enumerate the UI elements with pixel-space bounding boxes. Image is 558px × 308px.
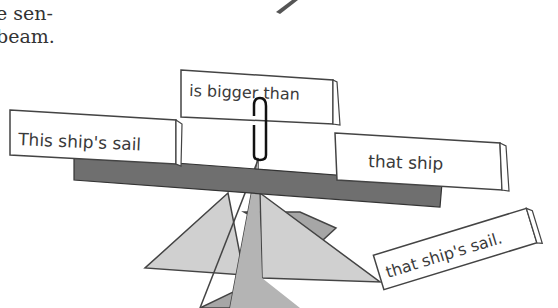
- card-subject: This ship's sail: [10, 110, 182, 166]
- card-object-text: that ship: [368, 151, 444, 174]
- arrow-fragment-icon: [276, 0, 298, 14]
- card-verb-text: is bigger than: [189, 81, 300, 104]
- card-extra: that ship's sail.: [373, 207, 542, 292]
- balance-beam-diagram: This ship's sail is bigger than that shi…: [0, 0, 558, 308]
